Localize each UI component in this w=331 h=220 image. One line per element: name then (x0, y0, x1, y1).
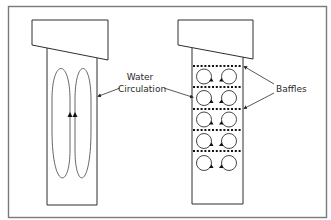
arrow-icon (219, 165, 224, 169)
cell-loop (197, 69, 212, 84)
arrow-icon (209, 100, 214, 104)
water-circulation-label: Water Circulation (99, 72, 192, 97)
cell-loop (222, 156, 237, 171)
arrow-icon (209, 78, 214, 82)
cell-arrows (209, 78, 224, 168)
label-circulation: Circulation (118, 84, 166, 94)
baffles-label: Baffles (245, 67, 307, 108)
circulation-loop-right (75, 69, 91, 178)
label-water: Water (127, 72, 154, 82)
cell-loop (222, 91, 237, 106)
cell-loop (222, 112, 237, 127)
cell-loop (197, 91, 212, 106)
cell-loop (197, 156, 212, 171)
up-arrow-icon (73, 112, 78, 117)
arrow-icon (209, 121, 214, 125)
cell-loop (222, 69, 237, 84)
leader-line-top (245, 67, 274, 84)
arrow-icon (209, 143, 214, 147)
baffle-circulation-diagram: Water Circulation (0, 0, 331, 220)
right-tank (178, 20, 253, 204)
left-tank (32, 20, 108, 205)
cell-loop (197, 134, 212, 149)
arrow-icon (219, 143, 224, 147)
baffles (193, 66, 242, 151)
circulation-loop-left (52, 69, 70, 178)
circulation-cells (197, 69, 237, 171)
label-baffles: Baffles (276, 84, 307, 94)
leader-line-right (164, 88, 192, 97)
cell-loop (197, 112, 212, 127)
arrow-icon (219, 121, 224, 125)
up-arrow-icon (68, 112, 73, 117)
leader-line-left (99, 88, 120, 96)
left-tank-column (47, 48, 97, 205)
right-tank-hopper (178, 20, 253, 59)
arrow-icon (219, 78, 224, 82)
cell-loop (222, 134, 237, 149)
arrow-icon (209, 165, 214, 169)
leader-line-bottom (245, 93, 274, 108)
left-tank-hopper (32, 20, 108, 60)
arrow-icon (219, 100, 224, 104)
